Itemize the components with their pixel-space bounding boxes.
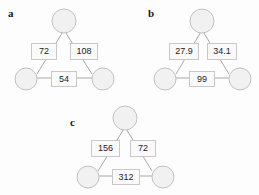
panel-b-label-bottom-left-to-bottom-right: 99: [189, 71, 215, 87]
panel-c: c 156 72 312: [55, 95, 200, 195]
panel-c-label-bottom-left-to-bottom-right: 312: [112, 169, 140, 185]
panel-c-label-top-to-bottom-left: 156: [91, 140, 120, 157]
panel-a-label-top-to-bottom-left: 72: [31, 43, 57, 60]
panel-c-node-bottom-right: [152, 166, 174, 188]
figure-root: a 72 108 54 b 27.9 34.1 99: [0, 0, 259, 195]
panel-a-node-bottom-left: [15, 68, 37, 90]
panel-a-label-top-to-bottom-right: 108: [70, 43, 98, 60]
panel-a-label-bottom-left-to-bottom-right: 54: [51, 71, 77, 87]
panel-a-node-bottom-right: [92, 68, 114, 90]
panel-c-node-top: [113, 106, 137, 130]
panel-c-label-top-to-bottom-right: 72: [130, 140, 156, 157]
panel-a-node-top: [52, 9, 76, 33]
panel-b-node-top: [190, 9, 214, 33]
panel-a: a 72 108 54: [0, 0, 130, 100]
panel-b-node-bottom-left: [154, 68, 176, 90]
panel-b-node-bottom-right: [229, 68, 251, 90]
panel-b-label-top-to-bottom-right: 34.1: [207, 43, 237, 60]
panel-b: b 27.9 34.1 99: [130, 0, 259, 100]
panel-b-label-top-to-bottom-left: 27.9: [169, 43, 199, 60]
panel-c-node-bottom-left: [77, 166, 99, 188]
